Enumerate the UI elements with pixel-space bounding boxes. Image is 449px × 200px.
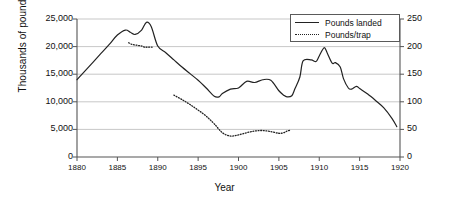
y2-tick-label: 150 — [407, 68, 443, 78]
y-tick-label: 20,000 — [37, 41, 73, 51]
x-tick-label: 1890 — [140, 163, 176, 172]
y-tick-label: 10,000 — [37, 96, 73, 106]
y-tick-label: 5,000 — [37, 123, 73, 133]
chart-container: Thousands of pounds Year 05,00010,00015,… — [0, 0, 449, 200]
y2-tick-label: 50 — [407, 123, 443, 133]
y2-tick-label: 0 — [407, 151, 443, 161]
series-line-pounds-trap-1 — [174, 95, 291, 136]
legend-key-solid-line-icon — [294, 18, 320, 28]
legend-item-pounds-per-trap: Pounds/trap — [294, 29, 396, 41]
x-tick-label: 1885 — [99, 163, 135, 172]
x-tick-label: 1910 — [301, 163, 337, 172]
y-tick-label: 15,000 — [37, 68, 73, 78]
x-tick-label: 1915 — [342, 163, 378, 172]
y2-tick-label: 250 — [407, 13, 443, 23]
x-tick-label: 1900 — [221, 163, 257, 172]
y-tick-label: 0 — [37, 151, 73, 161]
y2-tick-label: 100 — [407, 96, 443, 106]
y-tick-label: 25,000 — [37, 13, 73, 23]
y2-tick-label: 200 — [407, 41, 443, 51]
x-tick-label: 1905 — [261, 163, 297, 172]
legend-label-pounds-per-trap: Pounds/trap — [325, 30, 371, 40]
legend-item-pounds-landed: Pounds landed — [294, 17, 396, 29]
x-tick-label: 1920 — [382, 163, 418, 172]
x-tick-label: 1895 — [180, 163, 216, 172]
legend: Pounds landed Pounds/trap — [290, 14, 400, 42]
legend-label-pounds-landed: Pounds landed — [325, 18, 382, 28]
legend-key-dotted-line-icon — [294, 30, 320, 40]
x-tick-label: 1880 — [59, 163, 95, 172]
